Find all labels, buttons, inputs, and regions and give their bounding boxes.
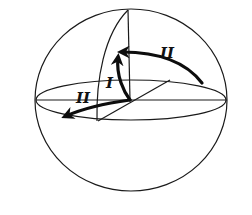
rotation-arrow-one <box>118 58 130 100</box>
sphere-rotation-diagram: I II II <box>0 0 252 215</box>
label-rotation-one: I <box>105 74 114 92</box>
figure-caption <box>0 200 252 215</box>
label-rotation-two-upper: II <box>159 44 175 62</box>
label-rotation-two-lower: II <box>75 89 91 107</box>
vertical-axis <box>128 10 130 100</box>
